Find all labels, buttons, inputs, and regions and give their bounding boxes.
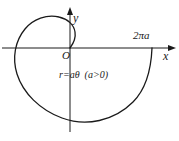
- spiral-figure: y x O 2πa r=aθ (a>0): [0, 0, 179, 141]
- x-axis-arrowhead: [168, 45, 176, 51]
- equation-condition: (a>0): [85, 69, 108, 80]
- equation-text: r=aθ: [59, 69, 80, 80]
- origin-label: O: [62, 50, 70, 61]
- y-axis-label: y: [73, 12, 78, 24]
- x-tick-label-2pia: 2πa: [133, 30, 150, 41]
- equation-annotation: r=aθ (a>0): [59, 70, 108, 80]
- x-axis-label: x: [163, 50, 168, 62]
